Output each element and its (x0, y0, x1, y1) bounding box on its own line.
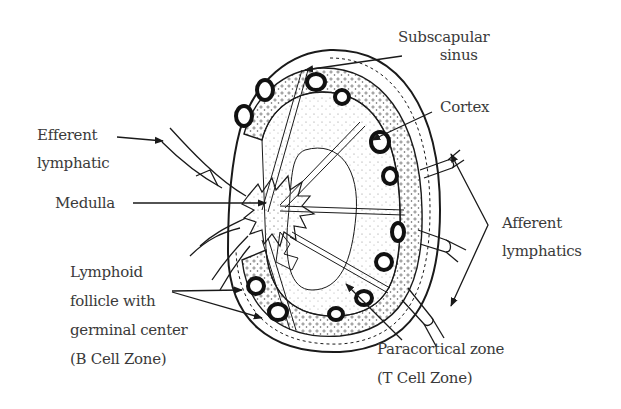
arrow-efferent-lymphatic (117, 137, 163, 141)
label-afferent-lymphatics: Afferent lymphatics (502, 214, 582, 260)
arrow-afferent-lymphatics (451, 154, 488, 306)
label-lymphoid-follicle-line2: follicle with (70, 287, 187, 316)
label-medulla: Medulla (55, 194, 115, 212)
label-paracortical-zone-line2: (T Cell Zone) (377, 364, 504, 393)
label-lymphoid-follicle: Lymphoid follicle with germinal center (… (70, 258, 187, 374)
label-lymphoid-follicle-line3: germinal center (70, 316, 187, 345)
label-efferent-lymphatic-line2: lymphatic (37, 154, 109, 172)
arrow-subscapular-sinus (305, 56, 402, 70)
label-paracortical-zone-line1: Paracortical zone (377, 335, 504, 364)
label-afferent-lymphatics-line2: lymphatics (502, 242, 582, 260)
label-afferent-lymphatics-line1: Afferent (502, 214, 582, 232)
label-subscapular-sinus-line2: sinus (398, 46, 489, 64)
label-subscapular-sinus: Subscapular sinus (398, 28, 489, 64)
label-efferent-lymphatic-line1: Efferent (37, 126, 109, 144)
label-cortex-line1: Cortex (440, 98, 489, 116)
label-cortex: Cortex (440, 98, 489, 116)
label-medulla-line1: Medulla (55, 194, 115, 212)
label-efferent-lymphatic: Efferent lymphatic (37, 126, 109, 172)
label-paracortical-zone: Paracortical zone (T Cell Zone) (377, 335, 504, 393)
label-lymphoid-follicle-line1: Lymphoid (70, 258, 187, 287)
label-lymphoid-follicle-line4: (B Cell Zone) (70, 345, 187, 374)
label-subscapular-sinus-line1: Subscapular (398, 28, 489, 46)
